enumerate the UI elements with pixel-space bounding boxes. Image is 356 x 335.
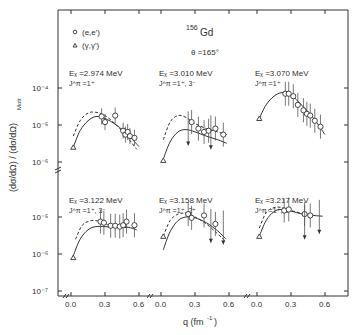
circle-marker-icon bbox=[73, 30, 77, 34]
x-tick-label: 0.6 bbox=[223, 300, 235, 309]
arrow-head-icon bbox=[186, 141, 190, 145]
legend-gg-label: (γ,γ') bbox=[82, 41, 99, 50]
ee-data-point bbox=[318, 124, 323, 129]
ee-data-point bbox=[102, 119, 107, 124]
ee-data-point bbox=[101, 220, 106, 225]
svg-text:q (fm: q (fm bbox=[183, 317, 204, 327]
solid-curve bbox=[73, 226, 136, 255]
excitation-energy-label: Eₓ =3.158 MeV bbox=[159, 196, 213, 205]
gamma-data-point bbox=[257, 234, 262, 238]
gamma-data-point bbox=[161, 234, 166, 238]
chart-title: 156 Gd θ =165° bbox=[186, 24, 219, 57]
y-tick-label: 10⁻⁷ bbox=[32, 287, 48, 296]
y-tick-label: 10⁻⁵ bbox=[32, 213, 48, 222]
x-tick-label: 0.6 bbox=[133, 300, 145, 309]
panel-3: Eₓ =3.070 MeVJ^π =1⁺ bbox=[255, 69, 325, 139]
ee-data-point bbox=[213, 221, 218, 226]
y-tick-label: 10⁻⁴ bbox=[32, 84, 49, 93]
ee-data-point bbox=[189, 119, 194, 124]
arrow-head-icon bbox=[317, 230, 321, 234]
ee-data-point bbox=[196, 126, 201, 131]
triangle-marker-icon bbox=[73, 44, 77, 48]
panel-6: Eₓ =3.217 MeVJ^π =1⁺, 3⁻ bbox=[255, 196, 323, 238]
legend-ee-label: (e,e') bbox=[82, 28, 100, 37]
arrow-head-icon bbox=[303, 235, 307, 239]
svg-text:Mott: Mott bbox=[16, 98, 22, 110]
panel-4: Eₓ =3.122 MeVJ^π =1⁺, 3⁻ bbox=[69, 196, 137, 260]
excitation-energy-label: Eₓ =2.974 MeV bbox=[69, 69, 123, 78]
solid-curve bbox=[163, 130, 226, 160]
ee-data-point bbox=[113, 113, 118, 118]
x-tick-label: 0.0 bbox=[155, 300, 167, 309]
figure: (e,e') (γ,γ') 156 Gd θ =165° (dσ/dΩ) / (… bbox=[0, 0, 356, 335]
plot-area: 10⁻⁴10⁻⁵10⁻⁶10⁻⁵10⁻⁶10⁻⁷0.00.30.60.00.30… bbox=[32, 10, 348, 309]
svg-text:Gd: Gd bbox=[200, 27, 213, 38]
panel-2: Eₓ =3.010 MeVJ^π =1⁺, 3⁻ bbox=[159, 69, 227, 162]
excitation-energy-label: Eₓ =3.010 MeV bbox=[159, 69, 213, 78]
ee-data-point bbox=[132, 223, 137, 228]
gamma-data-point bbox=[161, 158, 166, 162]
y-axis-label: (dσ/dΩ) / (dσ/dΩ) Mott bbox=[8, 98, 22, 192]
gamma-data-point bbox=[71, 145, 76, 149]
arrow-head-icon bbox=[209, 239, 213, 243]
ee-data-point bbox=[291, 94, 296, 99]
svg-text:156: 156 bbox=[186, 24, 198, 31]
ee-data-point bbox=[124, 219, 129, 224]
excitation-energy-label: Eₓ =3.122 MeV bbox=[69, 196, 123, 205]
spin-parity-label: J^π =1⁺ bbox=[69, 80, 95, 87]
excitation-energy-label: Eₓ =3.217 MeV bbox=[255, 196, 309, 205]
ee-data-point bbox=[99, 114, 104, 119]
y-tick-label: 10⁻⁶ bbox=[32, 158, 48, 167]
panel-1: Eₓ =2.974 MeVJ^π =1⁺ bbox=[69, 69, 139, 149]
arrow-head-icon bbox=[221, 241, 225, 245]
svg-text:(dσ/dΩ) / (dσ/dΩ): (dσ/dΩ) / (dσ/dΩ) bbox=[8, 123, 18, 192]
y-tick-label: 10⁻⁵ bbox=[32, 121, 48, 130]
gamma-data-point bbox=[257, 116, 262, 120]
ee-data-point bbox=[308, 213, 313, 218]
x-tick-label: 0.0 bbox=[65, 300, 77, 309]
gamma-data-point bbox=[71, 255, 76, 259]
x-tick-label: 0.3 bbox=[189, 300, 201, 309]
x-tick-label: 0.0 bbox=[251, 300, 263, 309]
ee-data-point bbox=[206, 128, 211, 133]
ee-data-point bbox=[308, 113, 313, 118]
ee-data-point bbox=[201, 213, 206, 218]
ee-data-point bbox=[221, 132, 226, 137]
ee-data-point bbox=[213, 126, 218, 131]
ee-data-point bbox=[132, 135, 137, 140]
svg-text:-1: -1 bbox=[207, 315, 213, 321]
x-tick-label: 0.3 bbox=[99, 300, 111, 309]
arrow-head-icon bbox=[209, 145, 213, 149]
ee-data-point bbox=[312, 118, 317, 123]
excitation-energy-label: Eₓ =3.070 MeV bbox=[255, 69, 309, 78]
spin-parity-label: J^π =1⁺, 3⁻ bbox=[159, 80, 196, 87]
spin-parity-label: J^π =1⁺ bbox=[255, 80, 281, 87]
svg-text:): ) bbox=[214, 317, 217, 327]
ee-data-point bbox=[286, 207, 291, 212]
x-tick-label: 0.3 bbox=[285, 300, 297, 309]
ee-data-point bbox=[295, 102, 300, 107]
x-tick-label: 0.6 bbox=[319, 300, 331, 309]
panel-5: Eₓ =3.158 MeVJ^π =1⁺, 2⁺ bbox=[159, 196, 226, 250]
y-tick-label: 10⁻⁶ bbox=[32, 250, 48, 259]
x-axis-label: q (fm -1 ) bbox=[183, 315, 217, 327]
ee-data-point bbox=[189, 215, 194, 220]
legend: (e,e') (γ,γ') bbox=[73, 28, 100, 50]
angle-label: θ =165° bbox=[191, 48, 219, 57]
